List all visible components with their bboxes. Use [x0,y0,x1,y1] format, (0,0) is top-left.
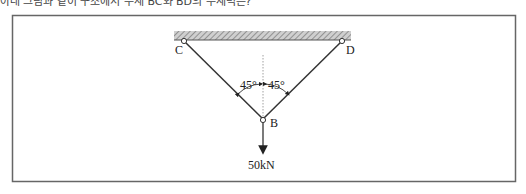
pin-d [339,38,344,43]
load-label: 50kN [248,158,275,172]
pin-b [260,117,265,122]
fixed-support-ceiling [174,31,351,40]
truss-diagram: C D B 45° 45° 50kN [0,0,526,194]
angle-label-left: 45° [240,78,257,92]
angle-label-right: 45° [268,78,285,92]
label-c: C [175,43,183,57]
label-b: B [270,116,278,130]
label-d: D [346,43,355,57]
